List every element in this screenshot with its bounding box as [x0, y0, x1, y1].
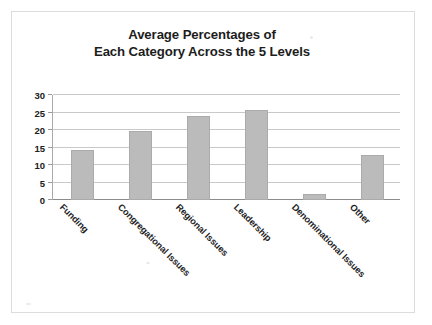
x-axis-label-funding: Funding: [58, 202, 91, 235]
y-tick-label-25: 25: [34, 107, 45, 118]
y-tick-label-5: 5: [40, 177, 45, 188]
y-tick-mark: [48, 199, 52, 200]
y-tick-label-10: 10: [34, 160, 45, 171]
chart-title-line-1: Average Percentages of: [20, 26, 384, 43]
gridline-10: [53, 164, 400, 165]
y-tick-mark: [48, 164, 52, 165]
gridline-30: [53, 94, 400, 95]
y-tick-label-15: 15: [34, 142, 45, 153]
bar-funding: [71, 150, 94, 200]
y-tick-label-20: 20: [34, 125, 45, 136]
bar-leadership: [245, 110, 268, 200]
x-axis-label-regional-issues: Regional Issues: [174, 202, 230, 258]
y-tick-mark: [48, 129, 52, 130]
bar-denominational-issues: [303, 194, 326, 200]
x-axis-label-other: Other: [348, 202, 372, 226]
gridline-25: [53, 112, 400, 113]
plot-wrap: 051015202530: [52, 95, 400, 200]
plot-area: [52, 95, 400, 200]
x-axis-labels: FundingCongregational IssuesRegional Iss…: [52, 202, 400, 297]
gridline-20: [53, 129, 400, 130]
y-tick-label-30: 30: [34, 90, 45, 101]
y-tick-label-0: 0: [40, 195, 45, 206]
y-tick-mark: [48, 147, 52, 148]
gridline-15: [53, 147, 400, 148]
chart-title-line-2: Each Category Across the 5 Levels: [20, 43, 384, 60]
bar-other: [361, 155, 384, 201]
x-axis-label-leadership: Leadership: [232, 202, 273, 243]
chart-page: Average Percentages of Each Category Acr…: [0, 0, 432, 325]
y-tick-mark: [48, 94, 52, 95]
chart-title: Average Percentages of Each Category Acr…: [20, 26, 384, 60]
bar-congregational-issues: [129, 131, 152, 200]
bar-regional-issues: [187, 116, 210, 200]
gridline-5: [53, 182, 400, 183]
gridline-0: [53, 199, 400, 200]
y-tick-mark: [48, 112, 52, 113]
y-tick-mark: [48, 182, 52, 183]
